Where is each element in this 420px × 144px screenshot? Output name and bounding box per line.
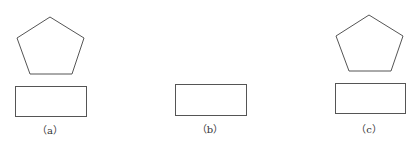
panel-label-c: （c） [356,121,382,136]
rectangle-shape-b [176,85,247,116]
rectangle-shape-c [336,84,406,114]
panel-label-a: （a） [37,122,63,137]
panel-c [336,15,406,114]
panel-label-b: （b） [197,121,223,136]
pentagon-shape-c [336,15,403,71]
panel-b [176,85,247,116]
figure-canvas: （a） （b） （c） [0,0,420,144]
rectangle-shape-a [16,87,87,117]
panel-a [16,17,87,117]
pentagon-shape-a [17,17,84,74]
